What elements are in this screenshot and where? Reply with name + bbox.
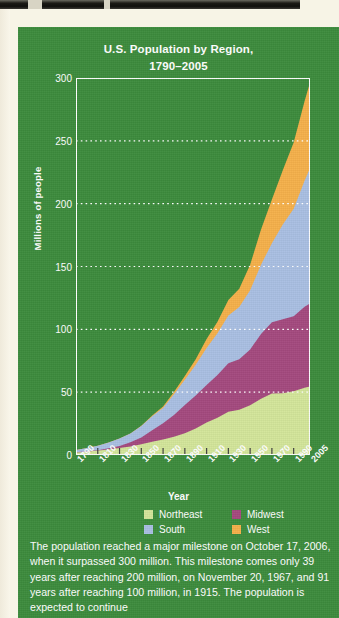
- y-tick-150: 150: [38, 261, 72, 272]
- legend-item-northeast: Northeast: [144, 509, 232, 520]
- x-axis-tick-labels: 1790181018301850187018901910193019501970…: [76, 457, 316, 487]
- page-edge-margin: [0, 9, 10, 618]
- chart-title-line1: U.S. Population by Region,: [104, 43, 254, 55]
- legend-item-south: South: [144, 524, 232, 535]
- y-tick-250: 250: [38, 135, 72, 146]
- legend-label-west: West: [247, 524, 270, 535]
- y-tick-0: 0: [38, 450, 72, 461]
- plot-frame: [76, 78, 310, 455]
- legend-label-south: South: [159, 524, 185, 535]
- scan-artifact-band: [0, 0, 339, 9]
- y-axis-tick-labels: 300 250 200 150 100 50 0: [32, 78, 72, 455]
- y-tick-200: 200: [38, 198, 72, 209]
- x-tick-label-2005: 2005: [309, 443, 330, 464]
- legend-item-midwest: Midwest: [232, 509, 322, 520]
- legend-item-west: West: [232, 524, 322, 535]
- figure-caption: The population reached a major milestone…: [30, 539, 332, 615]
- legend-swatch-midwest: [232, 510, 241, 519]
- plot-area: [76, 78, 310, 455]
- x-axis-title: Year: [18, 491, 339, 502]
- y-tick-100: 100: [38, 324, 72, 335]
- chart-legend: NortheastMidwestSouthWest: [144, 509, 334, 535]
- y-tick-300: 300: [38, 73, 72, 84]
- chart-title: U.S. Population by Region, 1790–2005: [18, 41, 339, 75]
- legend-label-northeast: Northeast: [159, 509, 202, 520]
- y-tick-50: 50: [38, 387, 72, 398]
- legend-swatch-northeast: [144, 510, 153, 519]
- figure-panel: U.S. Population by Region, 1790–2005 Mil…: [18, 27, 339, 618]
- legend-swatch-south: [144, 525, 153, 534]
- legend-label-midwest: Midwest: [247, 509, 284, 520]
- legend-swatch-west: [232, 525, 241, 534]
